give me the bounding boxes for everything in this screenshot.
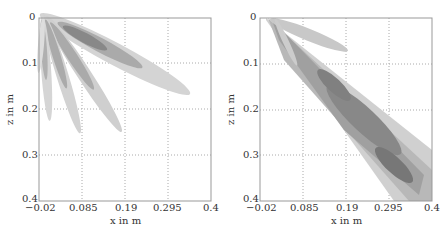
y-tick-2: 0.2 [243,103,259,114]
y-tick-0: 0 [29,11,35,22]
x-tick-4: 0.4 [424,202,440,213]
right-plot: 0 0.1 0.2 0.3 0.4 −0.02 0.085 0.19 0.295… [224,0,447,234]
beam-lobes [35,4,195,135]
x-tick-3: 0.295 [153,202,182,213]
y-tick-1: 0.1 [243,57,259,68]
y-axis-label: z in m [225,94,236,125]
beam-lobes [266,14,432,201]
x-tick-4: 0.4 [203,202,219,213]
y-tick-3: 0.3 [22,149,38,160]
x-axis-label: x in m [110,215,141,226]
y-tick-1: 0.1 [22,57,38,68]
left-plot: 0 0.1 0.2 0.3 0.4 −0.02 0.085 0.19 0.295… [0,0,224,234]
y-tick-2: 0.2 [22,103,38,114]
y-tick-3: 0.3 [243,149,259,160]
x-tick-2: 0.19 [115,202,137,213]
x-tick-1: 0.085 [69,202,98,213]
y-axis-label: z in m [4,94,15,125]
x-tick-0: −0.02 [246,202,277,213]
x-axis-label: x in m [331,215,362,226]
x-tick-2: 0.19 [336,202,358,213]
x-tick-0: −0.02 [25,202,56,213]
x-tick-1: 0.085 [290,202,319,213]
y-tick-0: 0 [250,11,256,22]
x-tick-3: 0.295 [374,202,403,213]
